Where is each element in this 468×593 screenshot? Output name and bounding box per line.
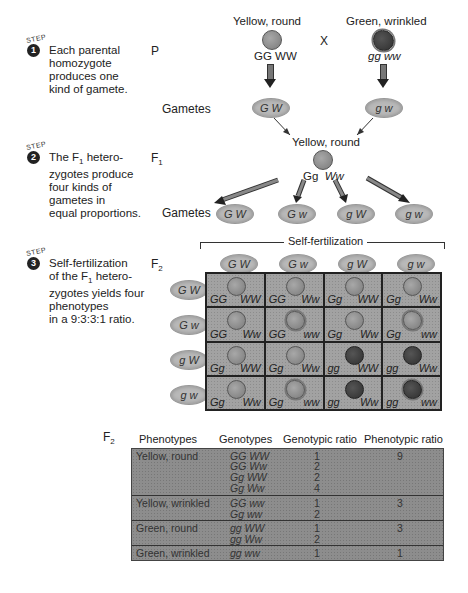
genotypic-ratio-cell: 4 bbox=[314, 484, 320, 493]
genotypic-ratio-cell: 2 bbox=[314, 510, 320, 519]
punnett-cell: GgWw bbox=[324, 307, 383, 341]
gametes-label-p: Gametes bbox=[162, 102, 211, 116]
genotype-w: WW bbox=[240, 362, 261, 374]
genotype-g: GG bbox=[210, 328, 227, 340]
genotype-w: Ww bbox=[301, 362, 319, 374]
phenotypic-ratio-cell: 9 bbox=[397, 452, 403, 461]
punnett-cell: Ggww bbox=[382, 307, 441, 341]
genotypic-ratio-cell: 2 bbox=[314, 473, 320, 482]
genotype-g: Gg bbox=[386, 293, 401, 305]
genotype-g: Gg bbox=[269, 396, 284, 408]
table-group-yellow-round: Yellow, round GG WW GG Ww Gg WW Gg Ww 1 … bbox=[132, 449, 443, 496]
step-1-number: 1 bbox=[27, 44, 40, 57]
punnett-col-gamete-2: G w bbox=[279, 254, 317, 274]
parent-left-phenotype: Yellow, round bbox=[233, 15, 301, 27]
table-group-green-wrinkled: Green, wrinkled gg ww 1 1 bbox=[132, 546, 443, 560]
phenotype-cell: Green, round bbox=[136, 524, 198, 533]
genotype-w: Ww bbox=[419, 362, 437, 374]
genotype-g: gg bbox=[386, 396, 398, 408]
genotype-w: ww bbox=[304, 396, 320, 408]
genotype-w: WW bbox=[357, 362, 378, 374]
punnett-cell: ggWW bbox=[324, 342, 383, 376]
parent-right-genotype: gg ww bbox=[368, 50, 401, 62]
gamete-p-right: g w bbox=[365, 98, 403, 118]
genotype-w: Ww bbox=[360, 328, 378, 340]
generation-f1-label: F1 bbox=[151, 151, 163, 167]
punnett-cell: ggWw bbox=[382, 342, 441, 376]
arrow-head-icon bbox=[264, 79, 276, 88]
genotype-g: GG bbox=[269, 293, 286, 305]
genotype-cell: Gg Ww bbox=[230, 484, 264, 493]
yellow-wrinkled-pea-icon bbox=[286, 380, 305, 399]
phenotype-cell: Yellow, round bbox=[136, 452, 198, 461]
phenotypic-ratio-cell: 1 bbox=[397, 549, 403, 558]
summary-table: Yellow, round GG WW GG Ww Gg WW Gg Ww 1 … bbox=[131, 448, 444, 561]
green-wrinkled-pea-icon bbox=[403, 380, 422, 399]
step-3-number: 3 bbox=[27, 257, 40, 270]
f1-gamete-3: g W bbox=[337, 204, 375, 224]
f1-gamete-4: g w bbox=[395, 204, 433, 224]
genotype-g: Gg bbox=[386, 328, 401, 340]
punnett-cell: GgWw bbox=[382, 273, 441, 307]
genotype-g: gg bbox=[386, 362, 398, 374]
punnett-cell: GgWw bbox=[265, 342, 324, 376]
arrow-down-icon bbox=[267, 64, 274, 80]
genotype-cell: GG Ww bbox=[230, 462, 267, 471]
table-group-green-round: Green, round gg WW gg Ww 1 2 3 bbox=[132, 521, 443, 546]
punnett-cell: ggww bbox=[382, 376, 441, 410]
genotype-g: Gg bbox=[328, 293, 343, 305]
generation-f2-label: F2 bbox=[151, 257, 163, 273]
genotype-g: Gg bbox=[269, 362, 284, 374]
genotype-cell: Gg WW bbox=[230, 473, 267, 482]
f1-gamete-1: G W bbox=[216, 204, 254, 224]
parent-left-genotype: GG WW bbox=[254, 50, 297, 62]
genotype-cell: GG ww bbox=[230, 499, 264, 508]
arrow-down-icon bbox=[380, 64, 387, 80]
phenotype-cell: Yellow, wrinkled bbox=[136, 499, 210, 508]
genotype-cell: gg WW bbox=[230, 524, 264, 533]
yellow-round-pea-icon bbox=[313, 150, 333, 170]
genotype-w: Ww bbox=[360, 396, 378, 408]
genotype-w: ww bbox=[421, 328, 437, 340]
punnett-row-gamete-1: G W bbox=[170, 280, 208, 300]
summary-generation-label: F2 bbox=[103, 430, 115, 446]
genotype-g: gg bbox=[328, 396, 340, 408]
self-fertilization-label: Self-fertilization bbox=[284, 235, 367, 247]
step-1-text: Each parental homozygote produces one ki… bbox=[49, 44, 128, 96]
punnett-col-gamete-3: g W bbox=[338, 254, 376, 274]
punnett-cell: GgWW bbox=[324, 273, 383, 307]
green-wrinkled-pea-icon bbox=[373, 30, 394, 51]
genotype-g: Gg bbox=[210, 396, 225, 408]
punnett-cell: GGWw bbox=[206, 307, 265, 341]
punnett-row-gamete-3: g W bbox=[170, 350, 208, 370]
gametes-label-f1: Gametes bbox=[162, 206, 211, 220]
punnett-cell: GGWw bbox=[265, 273, 324, 307]
punnett-cell: GGww bbox=[265, 307, 324, 341]
genotypic-ratio-cell: 1 bbox=[314, 549, 320, 558]
phenotypic-ratio-cell: 3 bbox=[397, 524, 403, 533]
genotype-w: Ww bbox=[242, 328, 260, 340]
arrow-head-icon bbox=[377, 79, 389, 88]
genotype-cell: gg Ww bbox=[230, 535, 262, 544]
punnett-row-gamete-4: g w bbox=[170, 385, 208, 405]
yellow-wrinkled-pea-icon bbox=[286, 311, 305, 330]
f1-genotype: Gg Ww bbox=[303, 170, 344, 182]
phenotype-cell: Green, wrinkled bbox=[136, 549, 210, 558]
punnett-row-gamete-2: G w bbox=[170, 315, 208, 335]
yellow-wrinkled-pea-icon bbox=[403, 311, 422, 330]
yellow-round-pea-icon bbox=[262, 30, 282, 50]
genotypic-ratio-cell: 2 bbox=[314, 462, 320, 471]
gamete-p-left: G W bbox=[252, 98, 290, 118]
punnett-cell: ggWw bbox=[324, 376, 383, 410]
genotype-w: Ww bbox=[301, 293, 319, 305]
genotype-g: Gg bbox=[210, 362, 225, 374]
step-2-number: 2 bbox=[27, 151, 40, 164]
f1-gamete-2: G w bbox=[278, 204, 316, 224]
genotype-w: Ww bbox=[419, 293, 437, 305]
f1-phenotype: Yellow, round bbox=[292, 136, 360, 148]
genotype-w: ww bbox=[421, 396, 437, 408]
cross-symbol: X bbox=[320, 34, 328, 48]
genotype-w: WW bbox=[357, 293, 378, 305]
genotype-w: ww bbox=[304, 328, 320, 340]
genotypic-ratio-cell: 2 bbox=[314, 535, 320, 544]
